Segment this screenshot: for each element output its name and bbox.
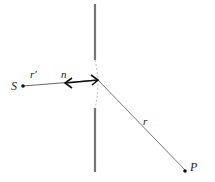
source-point — [21, 84, 25, 88]
label-source: S — [11, 80, 17, 92]
diagram-graphic — [0, 0, 215, 182]
diffraction-diagram: S r′ n r P — [0, 0, 215, 182]
observation-point — [183, 169, 187, 173]
label-normal: n — [61, 69, 67, 80]
aperture-dashed-curve — [95, 60, 98, 108]
label-point: P — [190, 161, 197, 173]
normal-vector — [66, 80, 98, 83]
ray-r — [98, 80, 185, 170]
label-r: r — [143, 116, 147, 127]
label-r-prime: r′ — [30, 69, 37, 80]
